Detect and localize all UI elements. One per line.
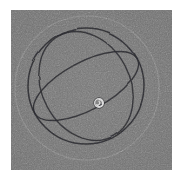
center-spiral-marker-shape	[94, 98, 103, 107]
outer-faint-circle-shape	[15, 16, 159, 160]
figure-root	[0, 0, 183, 181]
great-circle-ellipse-b-shape	[20, 15, 151, 157]
diagram-panel	[11, 10, 172, 170]
great-circle-ellipse-a-shape	[24, 38, 149, 135]
sphere-great-circle-diagram	[11, 10, 172, 170]
